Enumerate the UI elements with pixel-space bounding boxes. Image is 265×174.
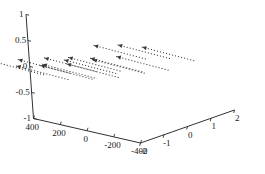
z-tick-label-3: -0.5 [16, 88, 30, 97]
quiver-arrowhead [45, 57, 50, 61]
quiver-dot [82, 74, 83, 75]
quiver-dot [34, 72, 35, 73]
quiver-dot [75, 66, 76, 67]
z-tick-label-1: 0.5 [15, 36, 26, 45]
quiver-dot [165, 69, 166, 70]
quiver-dot [81, 67, 82, 68]
z-tick-label-2: 0 [23, 62, 28, 71]
quiver-dot [79, 63, 80, 64]
quiver-dot [36, 64, 37, 65]
quiver-dot [139, 57, 140, 58]
quiver-dot [118, 77, 119, 78]
quiver-dot [163, 52, 164, 53]
quiver-arrow-10 [92, 59, 144, 74]
quiver-arrowhead [64, 59, 69, 63]
quiver-dot [155, 66, 156, 67]
quiver-dot [88, 78, 89, 79]
quiver-dot [131, 60, 132, 61]
quiver-dot [126, 68, 127, 69]
quiver-dot [52, 68, 53, 69]
quiver-dot [136, 56, 137, 57]
quiver-dot [90, 70, 91, 71]
quiver-dot [89, 63, 90, 64]
quiver-dot [118, 51, 119, 52]
quiver-dot [193, 60, 194, 61]
quiver-dot [184, 58, 185, 59]
quiver-dot [83, 68, 84, 69]
y-tick-label-2: 0 [84, 135, 89, 144]
quiver-dot [39, 65, 40, 66]
quiver-dot [57, 68, 58, 69]
y-tick-1 [60, 122, 61, 125]
quiver-dot [110, 68, 111, 69]
quiver-dot [149, 65, 150, 66]
quiver-dot [92, 63, 93, 64]
quiver-dot [72, 65, 73, 66]
quiver-dot [168, 70, 169, 71]
quiver-dot [49, 67, 50, 68]
quiver-arrowhead [118, 44, 123, 48]
quiver-dot [125, 58, 126, 59]
quiver-dot [175, 55, 176, 56]
quiver-dot [58, 77, 59, 78]
quiver-dot [30, 62, 31, 63]
quiver-dot [103, 73, 104, 74]
quiver-dot [67, 72, 68, 73]
quiver-dot [107, 67, 108, 68]
quiver-dot [94, 67, 95, 68]
quiver-dot [56, 61, 57, 62]
quiver-dot [127, 54, 128, 55]
quiver-dot [109, 75, 110, 76]
quiver-dot [95, 71, 96, 72]
quiver-dot [13, 66, 14, 67]
quiver-dot [83, 61, 84, 62]
quiver-dot [130, 48, 131, 49]
quiver-arrow-5 [42, 63, 94, 78]
x-tick-label-4: 2 [235, 114, 240, 123]
quiver-dot [159, 67, 160, 68]
quiver-dot [94, 77, 95, 78]
quiver-dot [97, 71, 98, 72]
quiver-dot [121, 52, 122, 53]
quiver-dot [123, 67, 124, 68]
quiver-dot [80, 60, 81, 61]
quiver-dot [61, 77, 62, 78]
quiver-dot [100, 69, 101, 70]
quiver-dot [65, 63, 66, 64]
quiver-dot [4, 64, 5, 65]
quiver-arrow-7 [90, 57, 142, 72]
quiver-dot [141, 72, 142, 73]
quiver-dot [137, 62, 138, 63]
quiver-dot [172, 55, 173, 56]
quiver-dot [85, 75, 86, 76]
quiver-dot [46, 73, 47, 74]
quiver-dot [113, 65, 114, 66]
quiver-dot [157, 51, 158, 52]
quiver-dot [110, 64, 111, 65]
quiver-dot [151, 53, 152, 54]
quiver-dot [132, 69, 133, 70]
quiver-dot [68, 64, 69, 65]
quiver-dot [7, 65, 8, 66]
quiver-arrowhead [117, 56, 122, 60]
quiver-dot [88, 66, 89, 67]
quiver-dot [97, 68, 98, 69]
quiver-dot [91, 77, 92, 78]
quiver-arrow-13 [118, 44, 170, 59]
quiver-dot [151, 49, 152, 50]
quiver-dot [79, 73, 80, 74]
quiver-dot [16, 67, 17, 68]
quiver-dot [77, 66, 78, 67]
quiver-dot [138, 71, 139, 72]
quiver-dot [160, 56, 161, 57]
quiver-dot [101, 62, 102, 63]
quiver-dot [98, 61, 99, 62]
quiver-dot [77, 59, 78, 60]
quiver-dot [122, 58, 123, 59]
quiver-dot [84, 68, 85, 69]
quiver-dot [76, 75, 77, 76]
quiver-dot [139, 50, 140, 51]
quiver-dot [31, 70, 32, 71]
quiver-dot [103, 70, 104, 71]
quiver-dot [54, 67, 55, 68]
